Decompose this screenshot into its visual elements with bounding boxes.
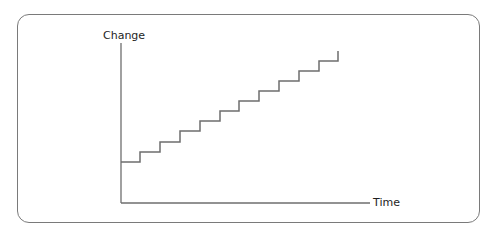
y-axis-label: Change bbox=[103, 30, 145, 41]
x-axis-label: Time bbox=[373, 197, 400, 208]
step-change-diagram bbox=[0, 0, 497, 232]
staircase-line bbox=[121, 51, 338, 162]
